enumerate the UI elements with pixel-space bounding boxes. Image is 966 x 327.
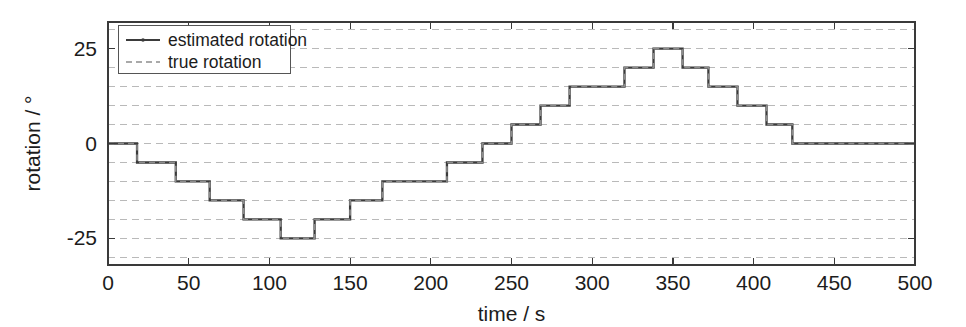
x-tick-label: 500 — [897, 271, 932, 294]
y-tick-label: -25 — [67, 226, 97, 249]
x-tick-label: 450 — [817, 271, 852, 294]
x-tick-label: 300 — [575, 271, 610, 294]
rotation-vs-time-chart: 050100150200250300350400450500 250-25 ti… — [0, 0, 966, 327]
legend-marker — [141, 38, 145, 42]
x-tick-label: 400 — [736, 271, 771, 294]
chart-legend: estimated rotationtrue rotation — [118, 25, 307, 73]
y-tick-label: 0 — [85, 132, 97, 155]
y-axis-title: rotation / ° — [21, 96, 44, 192]
x-tick-label: 200 — [413, 271, 448, 294]
x-axis-title: time / s — [478, 302, 546, 325]
x-tick-label: 0 — [102, 271, 114, 294]
x-tick-label: 150 — [333, 271, 368, 294]
x-tick-label: 350 — [655, 271, 690, 294]
x-tick-label: 50 — [177, 271, 200, 294]
legend-entry-label: true rotation — [168, 52, 261, 72]
x-tick-label: 250 — [494, 271, 529, 294]
legend-entry-label: estimated rotation — [168, 30, 307, 50]
x-tick-label: 100 — [252, 271, 287, 294]
y-tick-label: 25 — [74, 37, 97, 60]
chart-figure: 050100150200250300350400450500 250-25 ti… — [0, 0, 966, 327]
